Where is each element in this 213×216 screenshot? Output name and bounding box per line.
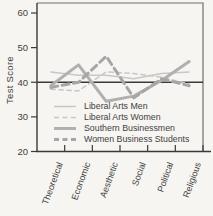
x-category-label: Economic <box>69 160 92 201</box>
y-tick-label: 20 <box>17 146 28 157</box>
x-category-label: Political <box>155 161 175 194</box>
legend-line-sample <box>53 113 77 122</box>
legend-item: Women Business Students <box>53 135 189 145</box>
legend-item-label: Liberal Arts Men <box>84 102 148 112</box>
y-tick-label: 40 <box>17 77 28 88</box>
legend-line-sample <box>53 124 77 133</box>
legend: Liberal Arts Men Liberal Arts Women Sout… <box>53 102 189 145</box>
legend-item-label: Women Business Students <box>84 135 189 145</box>
test-score-line-chart-figure: 6050403020TheoreticalEconomicAestheticSo… <box>0 0 213 216</box>
y-tick-label: 60 <box>17 7 28 18</box>
x-category-label: Social <box>130 161 148 187</box>
legend-item: Liberal Arts Men <box>53 102 189 112</box>
legend-item: Southern Businessmen <box>53 124 189 134</box>
y-axis-title: Test Score <box>4 56 15 104</box>
legend-item: Liberal Arts Women <box>53 113 189 123</box>
legend-item-label: Liberal Arts Women <box>84 113 161 123</box>
x-category-label: Religious <box>181 160 203 199</box>
y-tick-label: 50 <box>17 42 28 53</box>
y-tick-label: 30 <box>17 111 28 122</box>
legend-line-sample <box>53 102 77 111</box>
legend-line-sample <box>53 135 77 144</box>
x-category-label: Theoretical <box>40 161 65 206</box>
x-category-label: Aesthetic <box>98 160 120 199</box>
legend-item-label: Southern Businessmen <box>84 124 175 134</box>
